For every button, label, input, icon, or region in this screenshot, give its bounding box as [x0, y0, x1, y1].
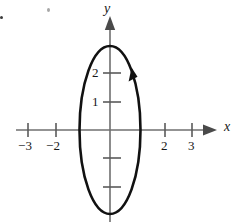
y-tick-label-2: 2	[92, 66, 99, 79]
coordinate-plane-svg	[0, 0, 242, 222]
y-tick-label-1: 1	[92, 95, 99, 108]
x-tick-label--2: −2	[46, 139, 60, 152]
x-axis-arrowhead-icon	[203, 125, 217, 136]
y-axis-label: y	[104, 2, 110, 16]
x-tick-label-3: 3	[188, 139, 195, 152]
x-axis-label: x	[224, 120, 230, 134]
bullet-dot-mark	[0, 16, 3, 19]
x-tick-label--3: −3	[18, 139, 32, 152]
graph-figure: y x −3 −2 2 3 2 1	[0, 0, 242, 222]
x-tick-label-2: 2	[161, 139, 168, 152]
faint-speck-mark	[47, 8, 50, 12]
y-axis-arrowhead-icon	[105, 16, 115, 30]
